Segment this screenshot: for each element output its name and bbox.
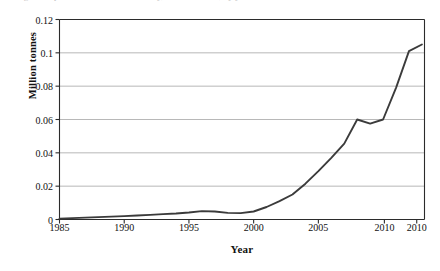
x-tick-label: 2005 xyxy=(288,222,348,233)
x-tick-label: 1995 xyxy=(159,222,219,233)
x-tick-label: 2010 xyxy=(387,222,440,233)
x-axis-tick-labels: 1985199019952000200520102010 xyxy=(0,0,440,271)
line-chart-figure: Million tonnes Year 00.020.040.060.080.1… xyxy=(0,0,440,271)
x-tick-label: 1990 xyxy=(94,222,154,233)
x-tick-label: 2000 xyxy=(224,222,284,233)
x-tick-label: 1985 xyxy=(30,222,90,233)
